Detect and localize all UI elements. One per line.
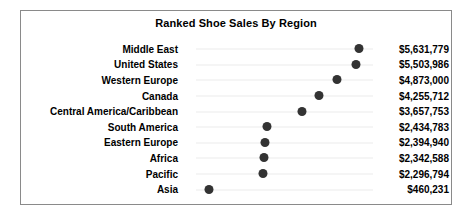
value-track bbox=[196, 152, 373, 163]
category-label: Pacific bbox=[21, 168, 178, 179]
data-point-marker bbox=[205, 185, 214, 194]
value-track bbox=[196, 121, 373, 132]
dot-plot-row: South America$2,434,783 bbox=[21, 119, 451, 135]
dot-plot-row: United States$5,503,986 bbox=[21, 57, 451, 73]
value-track bbox=[196, 59, 373, 70]
gridline bbox=[196, 80, 373, 81]
gridline bbox=[196, 174, 373, 175]
value-label: $5,503,986 bbox=[377, 59, 449, 70]
category-label: Africa bbox=[21, 152, 178, 163]
value-label: $2,296,794 bbox=[377, 168, 449, 179]
chart-container: Ranked Shoe Sales By Region Middle East$… bbox=[20, 10, 452, 205]
dot-plot-row: Canada$4,255,712 bbox=[21, 88, 451, 104]
value-track bbox=[196, 137, 373, 148]
value-label: $5,631,779 bbox=[377, 43, 449, 54]
gridline bbox=[196, 142, 373, 143]
value-label: $3,657,753 bbox=[377, 106, 449, 117]
dot-plot-row: Africa$2,342,588 bbox=[21, 150, 451, 166]
gridline bbox=[196, 64, 373, 65]
value-track bbox=[196, 43, 373, 54]
data-point-marker bbox=[351, 60, 360, 69]
value-label: $4,873,000 bbox=[377, 74, 449, 85]
category-label: Eastern Europe bbox=[21, 137, 178, 148]
dot-plot-row: Central America/Caribbean$3,657,753 bbox=[21, 103, 451, 119]
data-point-marker bbox=[355, 44, 364, 53]
category-label: Western Europe bbox=[21, 74, 178, 85]
category-label: Middle East bbox=[21, 43, 178, 54]
value-label: $2,394,940 bbox=[377, 137, 449, 148]
value-track bbox=[196, 184, 373, 195]
dot-plot-rows: Middle East$5,631,779United States$5,503… bbox=[21, 41, 451, 197]
category-label: United States bbox=[21, 59, 178, 70]
data-point-marker bbox=[261, 138, 270, 147]
value-track bbox=[196, 168, 373, 179]
value-track bbox=[196, 106, 373, 117]
dot-plot-row: Pacific$2,296,794 bbox=[21, 166, 451, 182]
gridline bbox=[196, 111, 373, 112]
value-label: $2,434,783 bbox=[377, 121, 449, 132]
gridline bbox=[196, 96, 373, 97]
dot-plot-row: Asia$460,231 bbox=[21, 181, 451, 197]
value-label: $460,231 bbox=[377, 184, 449, 195]
dot-plot-row: Middle East$5,631,779 bbox=[21, 41, 451, 57]
value-track bbox=[196, 74, 373, 85]
dot-plot-row: Eastern Europe$2,394,940 bbox=[21, 135, 451, 151]
value-label: $2,342,588 bbox=[377, 152, 449, 163]
gridline bbox=[196, 158, 373, 159]
category-label: Central America/Caribbean bbox=[21, 106, 178, 117]
gridline bbox=[196, 127, 373, 128]
data-point-marker bbox=[258, 169, 267, 178]
category-label: Canada bbox=[21, 90, 178, 101]
data-point-marker bbox=[333, 75, 342, 84]
gridline bbox=[196, 49, 373, 50]
category-label: Asia bbox=[21, 184, 178, 195]
data-point-marker bbox=[259, 153, 268, 162]
dot-plot-row: Western Europe$4,873,000 bbox=[21, 72, 451, 88]
category-label: South America bbox=[21, 121, 178, 132]
value-track bbox=[196, 90, 373, 101]
data-point-marker bbox=[262, 122, 271, 131]
data-point-marker bbox=[315, 91, 324, 100]
gridline bbox=[196, 189, 373, 190]
data-point-marker bbox=[298, 107, 307, 116]
value-label: $4,255,712 bbox=[377, 90, 449, 101]
chart-title: Ranked Shoe Sales By Region bbox=[21, 17, 451, 29]
